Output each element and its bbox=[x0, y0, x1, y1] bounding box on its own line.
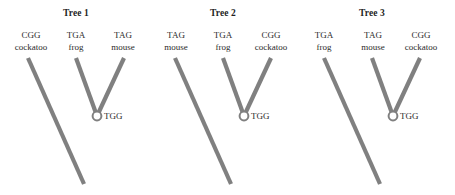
ancestral-node-marker bbox=[389, 112, 398, 121]
tree-branches bbox=[296, 0, 448, 195]
tree-panel-2: Tree 2 TAG mouse TGA frog CGG cockatoo T… bbox=[147, 0, 299, 195]
ancestral-node-marker bbox=[240, 112, 249, 121]
branch-right-leaf bbox=[97, 58, 124, 116]
branch-middle-leaf bbox=[372, 58, 393, 116]
branch-middle-leaf bbox=[223, 58, 244, 116]
branch-middle-leaf bbox=[76, 58, 97, 116]
tree-panel-3: Tree 3 TGA frog TAG mouse CGG cockatoo T… bbox=[296, 0, 448, 195]
tree-branches bbox=[0, 0, 152, 195]
branch-left-leaf bbox=[324, 58, 380, 184]
ancestral-node-label: TGG bbox=[400, 111, 419, 121]
branch-right-leaf bbox=[393, 58, 420, 116]
phylogenetic-trees-figure: Tree 1 CGG cockatoo TGA frog TAG mouse T… bbox=[0, 0, 455, 195]
branch-right-leaf bbox=[244, 58, 271, 116]
ancestral-node-marker bbox=[93, 112, 102, 121]
tree-branches bbox=[147, 0, 299, 195]
ancestral-node-label: TGG bbox=[104, 111, 123, 121]
branch-left-leaf bbox=[175, 58, 231, 184]
tree-panel-1: Tree 1 CGG cockatoo TGA frog TAG mouse T… bbox=[0, 0, 152, 195]
branch-left-leaf bbox=[28, 58, 84, 184]
ancestral-node-label: TGG bbox=[251, 111, 270, 121]
